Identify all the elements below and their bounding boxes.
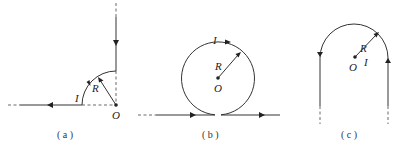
label-center: O: [349, 61, 357, 73]
label-current: I: [363, 56, 369, 68]
label-center: O: [214, 82, 222, 94]
radius-vector: [100, 80, 116, 105]
caption-b: ( b ): [202, 129, 219, 141]
figure-a: I R O ( a ): [8, 3, 120, 141]
figure-b: I R O ( b ): [138, 34, 280, 141]
label-radius: R: [91, 82, 99, 94]
radius-arrow-icon: [98, 77, 104, 83]
diagram-canvas: I R O ( a ) I R O ( b ) R I O ( c ): [0, 0, 400, 151]
current-arrow-up-icon: [385, 58, 391, 63]
caption-c: ( c ): [341, 129, 357, 141]
label-center: O: [112, 109, 120, 121]
center-point: [114, 103, 118, 107]
caption-a: ( a ): [57, 129, 73, 141]
label-current: I: [212, 34, 218, 46]
current-arrow-down-icon: [317, 52, 323, 57]
label-current: I: [74, 92, 80, 104]
label-radius: R: [214, 60, 222, 72]
label-radius: R: [359, 42, 367, 54]
current-arrow-down-icon: [113, 40, 119, 46]
figure-c: R I O ( c ): [317, 24, 391, 141]
center-point: [216, 76, 220, 80]
semicircle-arc: [320, 24, 388, 58]
current-arrow-right-icon-2: [259, 112, 265, 118]
current-arrow-right-icon: [190, 112, 196, 118]
current-arrow-left-icon: [47, 102, 53, 108]
center-point: [353, 55, 357, 59]
quarter-arc: [82, 71, 116, 105]
